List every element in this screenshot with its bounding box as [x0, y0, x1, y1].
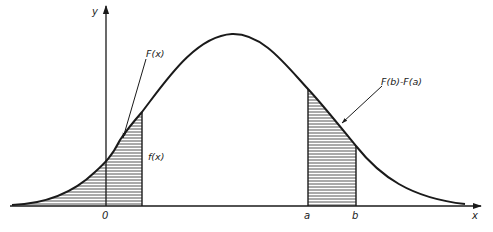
pdf-label: f(x): [148, 151, 164, 162]
b-marker-label: b: [352, 210, 358, 221]
interval-pointer-arrow: [342, 86, 382, 123]
interval-label: F(b)-F(a): [381, 76, 422, 87]
interval-shaded-area: [300, 91, 360, 205]
density-diagram: y x 0 a b F(x) f(x) F(b)-F(a): [0, 0, 493, 232]
origin-label: 0: [102, 210, 108, 221]
cdf-label: F(x): [146, 48, 165, 59]
y-axis-label: y: [91, 6, 99, 17]
a-marker-label: a: [304, 210, 310, 221]
x-axis-label: x: [471, 210, 478, 221]
density-curve: [12, 34, 465, 205]
cdf-shaded-area: [0, 114, 160, 204]
